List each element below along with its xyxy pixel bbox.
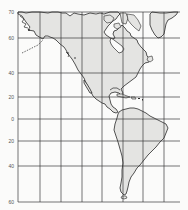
- lat-label-40s: 40: [1, 163, 14, 169]
- puerto-rico: [138, 98, 140, 99]
- cuba: [117, 94, 130, 98]
- americas-map: [0, 0, 188, 210]
- lat-label-20s: 20: [1, 138, 14, 144]
- map-container: 70 60 40 20 0 20 40 60: [0, 0, 188, 210]
- coastal-point-marker: [74, 57, 76, 59]
- baffin-island: [127, 14, 141, 31]
- south-america-landmass: [114, 108, 168, 195]
- tierra-del-fuego: [121, 196, 127, 199]
- land-layer: [18, 12, 178, 199]
- lat-label-70n: 70: [1, 9, 14, 15]
- north-america-landmass: [18, 12, 150, 113]
- lat-label-20n: 20: [1, 94, 14, 100]
- alaska-point-marker: [28, 29, 30, 31]
- arctic-island-3: [120, 13, 128, 24]
- lat-label-60s: 60: [1, 199, 14, 205]
- lat-label-equator: 0: [1, 116, 14, 122]
- lat-label-60n: 60: [1, 35, 14, 41]
- inland-point-marker: [67, 52, 69, 54]
- lat-label-40n: 40: [1, 70, 14, 76]
